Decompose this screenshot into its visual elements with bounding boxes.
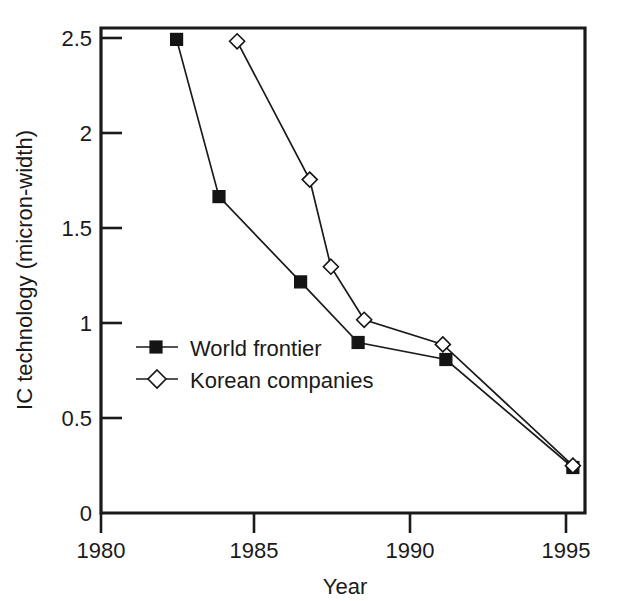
x-axis-ticks [101, 513, 566, 533]
y-axis-ticks [101, 38, 122, 418]
line-chart-canvas: 2.5 2 1.5 1 0.5 0 1980 1985 1990 1995 IC… [0, 0, 626, 601]
series-line [237, 41, 573, 465]
data-point-filled-square [440, 354, 452, 366]
data-point-open-diamond [357, 312, 372, 327]
legend-entry-korean-companies: Korean companies [136, 368, 373, 393]
data-point-open-diamond [302, 172, 317, 187]
series-world-frontier [171, 33, 579, 473]
legend-label-korean-companies: Korean companies [190, 368, 373, 393]
x-tick-label: 1995 [542, 538, 591, 563]
data-series-layer [171, 33, 581, 473]
plot-frame [101, 28, 585, 513]
data-point-filled-square [295, 276, 307, 288]
y-tick-label: 2.5 [61, 26, 92, 51]
y-tick-label: 0 [80, 501, 92, 526]
x-tick-labels: 1980 1985 1990 1995 [77, 538, 591, 563]
data-point-filled-square [213, 191, 225, 203]
chart-legend: World frontier Korean companies [136, 336, 373, 393]
legend-label-world-frontier: World frontier [190, 336, 322, 361]
x-axis-title: Year [323, 574, 367, 599]
data-point-filled-square [352, 337, 364, 349]
series-line [177, 39, 573, 467]
filled-square-icon [150, 341, 162, 353]
chart-figure: 2.5 2 1.5 1 0.5 0 1980 1985 1990 1995 IC… [0, 0, 626, 601]
y-tick-label: 1.5 [61, 216, 92, 241]
y-tick-labels: 2.5 2 1.5 1 0.5 0 [61, 26, 92, 526]
data-point-open-diamond [230, 34, 245, 49]
y-tick-label: 1 [80, 311, 92, 336]
x-tick-label: 1985 [230, 538, 279, 563]
x-tick-label: 1990 [386, 538, 435, 563]
x-tick-label: 1980 [77, 538, 126, 563]
open-diamond-icon [148, 370, 166, 388]
series-korean-companies [230, 34, 581, 473]
y-tick-label: 2 [80, 121, 92, 146]
data-point-open-diamond [323, 259, 338, 274]
y-axis-title: IC technology (micron-width) [12, 130, 37, 410]
y-tick-label: 0.5 [61, 406, 92, 431]
legend-entry-world-frontier: World frontier [136, 336, 322, 361]
data-point-filled-square [171, 33, 183, 45]
